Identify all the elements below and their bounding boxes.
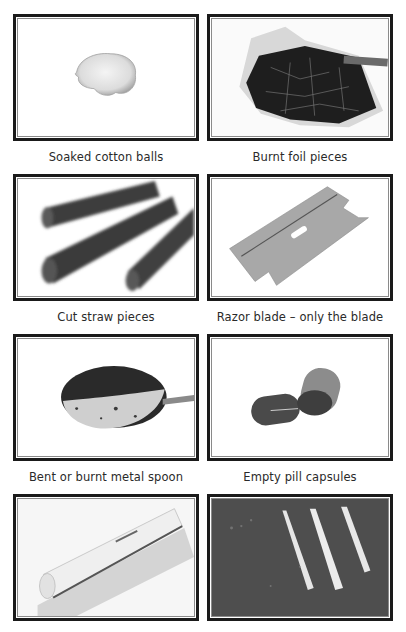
photo-frame — [207, 494, 393, 621]
cotton-ball-image — [17, 18, 195, 137]
photo-frame — [13, 334, 199, 461]
caption: Razor blade – only the blade — [203, 310, 397, 324]
burnt-foil-image — [211, 18, 389, 137]
photo-frame — [207, 334, 393, 461]
powder-lines-image — [211, 498, 389, 617]
cut-straws-image — [17, 178, 195, 297]
caption: Soaked cotton balls — [9, 150, 203, 164]
burnt-spoon-image — [17, 338, 195, 457]
caption: Burnt foil pieces — [203, 150, 397, 164]
caption: Cut straw pieces — [9, 310, 203, 324]
photo-frame — [207, 174, 393, 301]
caption: Empty pill capsules — [203, 470, 397, 484]
rolled-paper-image — [17, 498, 195, 617]
photo-frame — [207, 14, 393, 141]
razor-blade-image — [211, 178, 389, 297]
photo-frame — [13, 174, 199, 301]
photo-frame — [13, 494, 199, 621]
pill-capsules-image — [211, 338, 389, 457]
photo-frame — [13, 14, 199, 141]
caption: Bent or burnt metal spoon — [9, 470, 203, 484]
